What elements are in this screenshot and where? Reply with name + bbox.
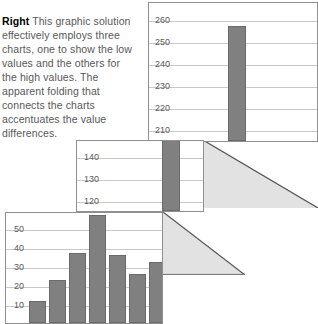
bar [69, 253, 86, 323]
y-tick-label: 220 [155, 104, 170, 113]
y-tick-label: 250 [155, 38, 170, 47]
y-tick-label: 10 [14, 301, 24, 310]
y-tick-label: 210 [155, 126, 170, 135]
bar [228, 26, 246, 141]
plot-area-mid: 140 130 120 [77, 141, 203, 211]
chart-panel-low: 50 40 30 20 10 [5, 212, 163, 324]
y-tick-label: 120 [84, 197, 99, 206]
bar [89, 215, 106, 323]
y-tick-label: 140 [84, 153, 99, 162]
gridline [6, 230, 162, 231]
y-tick-label: 40 [14, 244, 24, 253]
bar [49, 280, 66, 323]
y-tick-label: 50 [14, 225, 24, 234]
fold-lower-triangle [163, 212, 245, 275]
bar [162, 141, 180, 211]
y-tick-label: 230 [155, 82, 170, 91]
fold-upper-triangle [203, 140, 318, 208]
gridline [6, 249, 162, 250]
chart-panel-high: 260 250 240 230 220 210 [148, 2, 318, 142]
plot-area-low: 50 40 30 20 10 [6, 213, 162, 323]
y-tick-label: 130 [84, 175, 99, 184]
chart-panel-mid: 140 130 120 [76, 140, 204, 212]
bar [29, 301, 46, 323]
gridline [149, 21, 317, 22]
y-tick-label: 30 [14, 263, 24, 272]
caption-lead: Right [2, 15, 29, 27]
figure-caption: Right This graphic solution effectively … [2, 14, 134, 141]
bar [149, 262, 162, 323]
y-tick-label: 260 [155, 16, 170, 25]
bar [129, 274, 146, 323]
plot-area-high: 260 250 240 230 220 210 [149, 3, 317, 141]
y-tick-label: 240 [155, 60, 170, 69]
caption-body: This graphic solution effectively employ… [2, 15, 132, 140]
y-tick-label: 20 [14, 282, 24, 291]
bar [109, 255, 126, 323]
